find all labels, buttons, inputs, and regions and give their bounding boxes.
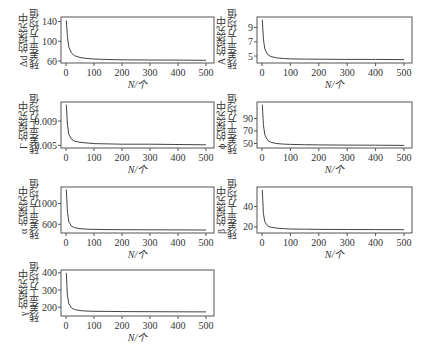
y-tick-label: 300 bbox=[42, 285, 57, 296]
y-axis-label-line1: γ 的探究中 bbox=[18, 264, 29, 322]
data-line bbox=[262, 190, 404, 230]
x-tick-label: 300 bbox=[340, 237, 355, 248]
y-tick-label: 40 bbox=[243, 201, 253, 212]
x-tick-label: 400 bbox=[171, 320, 186, 331]
data-line bbox=[66, 190, 206, 231]
y-tick-label: 60 bbox=[47, 56, 57, 67]
y-axis-label-line1: ϕ 的探究中 bbox=[216, 96, 227, 154]
y-tick-label: 140 bbox=[42, 16, 57, 27]
y-tick-label: 9 bbox=[248, 22, 253, 33]
y-tick-label: 90 bbox=[243, 113, 253, 124]
y-tick-label: 20 bbox=[243, 221, 253, 232]
chart-delta-d: 601001400100200300400500N/个Δd 的探究中残差平方均值 bbox=[0, 0, 215, 88]
x-tick-label: 500 bbox=[397, 67, 412, 78]
plot-frame bbox=[61, 270, 214, 316]
x-axis-label: N/个 bbox=[324, 249, 345, 260]
x-axis-label: N/个 bbox=[127, 249, 148, 260]
y-axis-label-line2: 残差平方均值 bbox=[227, 11, 238, 69]
x-tick-label: 200 bbox=[115, 67, 130, 78]
y-axis-label-line2: 残差平方均值 bbox=[29, 96, 40, 154]
data-line bbox=[262, 105, 404, 146]
y-axis-label-line2: 残差平方均值 bbox=[29, 181, 40, 239]
data-line bbox=[66, 21, 206, 61]
y-axis-label: β 的探究中残差平方均值 bbox=[216, 181, 238, 239]
x-tick-label: 0 bbox=[64, 237, 69, 248]
x-tick-label: 200 bbox=[311, 152, 326, 163]
y-axis-label: γ 的探究中残差平方均值 bbox=[18, 264, 40, 322]
x-axis-label: N/个 bbox=[127, 332, 148, 343]
chart-svg: 5070900100200300400500N/个 bbox=[210, 88, 423, 176]
y-axis-label: α 的探究中残差平方均值 bbox=[18, 181, 40, 239]
x-tick-label: 0 bbox=[260, 152, 265, 163]
data-line bbox=[66, 105, 206, 145]
y-axis-label-line2: 残差平方均值 bbox=[227, 96, 238, 154]
y-tick-label: 5 bbox=[248, 51, 253, 62]
x-tick-label: 300 bbox=[340, 67, 355, 78]
y-tick-label: 200 bbox=[42, 302, 57, 313]
y-axis-label: Γ 的探究中残差平方均值 bbox=[18, 96, 40, 154]
x-tick-label: 500 bbox=[397, 152, 412, 163]
x-tick-label: 400 bbox=[171, 152, 186, 163]
chart-phi: 5070900100200300400500N/个ϕ 的探究中残差平方均值 bbox=[210, 88, 423, 176]
x-tick-label: 400 bbox=[171, 67, 186, 78]
x-tick-label: 0 bbox=[260, 67, 265, 78]
x-tick-label: 300 bbox=[143, 152, 158, 163]
x-tick-label: 100 bbox=[283, 67, 298, 78]
x-tick-label: 200 bbox=[311, 237, 326, 248]
x-tick-label: 300 bbox=[143, 237, 158, 248]
x-tick-label: 100 bbox=[87, 237, 102, 248]
y-axis-label-line2: 残差平方均值 bbox=[227, 181, 238, 239]
chart-beta: 20400100200300400500N/个β 的探究中残差平方均值 bbox=[210, 175, 423, 263]
y-tick-label: 1000 bbox=[37, 198, 57, 209]
x-tick-label: 0 bbox=[260, 237, 265, 248]
x-tick-label: 0 bbox=[64, 152, 69, 163]
x-tick-label: 100 bbox=[87, 152, 102, 163]
x-tick-label: 200 bbox=[115, 237, 130, 248]
chart-gamma-lower: 2003004000100200300400500N/个γ 的探究中残差平方均值 bbox=[0, 260, 215, 348]
y-axis-label-line1: α 的探究中 bbox=[18, 181, 29, 239]
chart-svg: 20400100200300400500N/个 bbox=[210, 175, 423, 263]
y-tick-label: 7 bbox=[248, 36, 253, 47]
x-tick-label: 500 bbox=[397, 237, 412, 248]
y-axis-label-line1: A 的探究中 bbox=[216, 11, 227, 69]
x-tick-label: 200 bbox=[115, 152, 130, 163]
y-axis-label-line2: 残差平方均值 bbox=[29, 11, 40, 69]
chart-svg: 5790100200300400500N/个 bbox=[210, 0, 423, 88]
x-tick-label: 100 bbox=[87, 320, 102, 331]
y-tick-label: 100 bbox=[42, 36, 57, 47]
y-axis-label-line2: 残差平方均值 bbox=[29, 264, 40, 322]
chart-lambda: 5790100200300400500N/个A 的探究中残差平方均值 bbox=[210, 0, 423, 88]
x-tick-label: 100 bbox=[87, 67, 102, 78]
plot-frame bbox=[257, 102, 412, 148]
x-tick-label: 300 bbox=[143, 67, 158, 78]
y-tick-label: 70 bbox=[243, 125, 253, 136]
plot-frame bbox=[61, 187, 214, 233]
plot-frame bbox=[257, 17, 412, 63]
x-tick-label: 300 bbox=[143, 320, 158, 331]
x-tick-label: 400 bbox=[368, 237, 383, 248]
x-tick-label: 500 bbox=[199, 320, 214, 331]
data-line bbox=[66, 273, 206, 312]
y-tick-label: 600 bbox=[42, 219, 57, 230]
plot-frame bbox=[61, 17, 214, 63]
x-tick-label: 400 bbox=[368, 152, 383, 163]
x-tick-label: 200 bbox=[311, 67, 326, 78]
x-tick-label: 300 bbox=[340, 152, 355, 163]
y-axis-label-line1: Γ 的探究中 bbox=[18, 96, 29, 154]
y-tick-label: 50 bbox=[243, 138, 253, 149]
x-tick-label: 200 bbox=[115, 320, 130, 331]
y-axis-label-line1: Δd 的探究中 bbox=[18, 11, 29, 69]
y-tick-label: 400 bbox=[42, 267, 57, 278]
y-axis-label: ϕ 的探究中残差平方均值 bbox=[216, 96, 238, 154]
x-axis-label: N/个 bbox=[127, 164, 148, 175]
x-tick-label: 0 bbox=[64, 67, 69, 78]
chart-alpha: 60010000100200300400500N/个α 的探究中残差平方均值 bbox=[0, 175, 215, 263]
y-axis-label: Δd 的探究中残差平方均值 bbox=[18, 11, 40, 69]
plot-frame bbox=[61, 102, 214, 148]
x-tick-label: 100 bbox=[283, 237, 298, 248]
plot-frame bbox=[257, 187, 412, 233]
x-axis-label: N/个 bbox=[324, 164, 345, 175]
x-tick-label: 0 bbox=[64, 320, 69, 331]
chart-gamma-upper: 0.0050.0090100200300400500N/个Γ 的探究中残差平方均… bbox=[0, 88, 215, 176]
y-axis-label-line1: β 的探究中 bbox=[216, 181, 227, 239]
